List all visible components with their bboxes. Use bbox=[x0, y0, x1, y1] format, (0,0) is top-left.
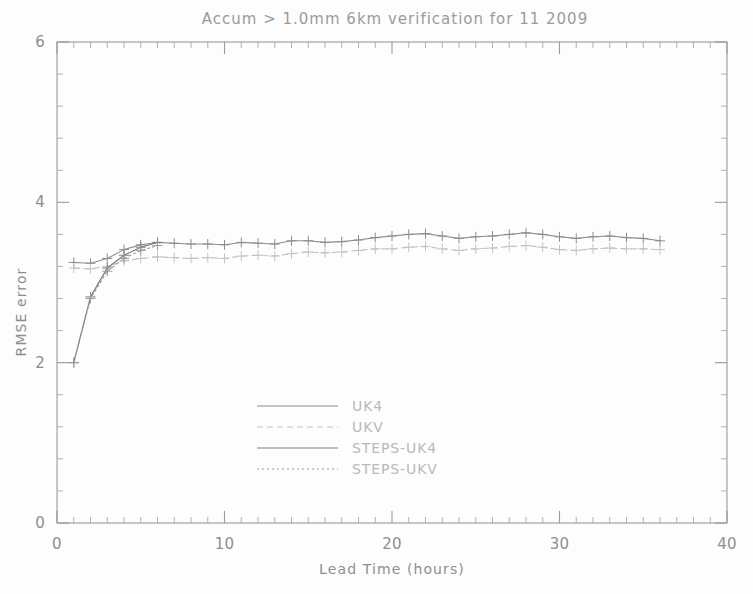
y-axis-tick-labels: 0246 bbox=[35, 33, 45, 532]
x-axis-title: Lead Time (hours) bbox=[319, 561, 465, 577]
legend-label-uk4: UK4 bbox=[352, 398, 383, 414]
series-steps-ukv bbox=[69, 241, 163, 368]
chart-canvas: Accum > 1.0mm 6km verification for 11 20… bbox=[0, 0, 753, 594]
data-series-group bbox=[69, 228, 665, 368]
y-tick-label: 6 bbox=[35, 33, 45, 51]
chart-legend: UK4UKVSTEPS-UK4STEPS-UKV bbox=[257, 398, 438, 477]
x-tick-label: 40 bbox=[717, 535, 737, 553]
series-uk4 bbox=[69, 228, 665, 268]
y-axis-title: RMSE error bbox=[13, 268, 29, 357]
x-tick-label: 20 bbox=[382, 535, 402, 553]
y-tick-label: 2 bbox=[35, 354, 45, 372]
y-tick-label: 4 bbox=[35, 193, 45, 211]
x-tick-label: 30 bbox=[550, 535, 570, 553]
y-tick-label: 0 bbox=[35, 514, 45, 532]
chart-page: Accum > 1.0mm 6km verification for 11 20… bbox=[0, 0, 753, 594]
legend-label-steps-ukv: STEPS-UKV bbox=[352, 461, 438, 477]
legend-label-ukv: UKV bbox=[352, 419, 384, 435]
series-line bbox=[74, 233, 660, 263]
legend-label-steps-uk4: STEPS-UK4 bbox=[352, 440, 437, 456]
x-axis-tick-labels: 010203040 bbox=[52, 535, 737, 553]
x-tick-label: 0 bbox=[52, 535, 62, 553]
x-tick-label: 10 bbox=[215, 535, 235, 553]
series-steps-uk4 bbox=[69, 237, 163, 367]
chart-title: Accum > 1.0mm 6km verification for 11 20… bbox=[202, 10, 588, 28]
series-line bbox=[74, 242, 158, 362]
